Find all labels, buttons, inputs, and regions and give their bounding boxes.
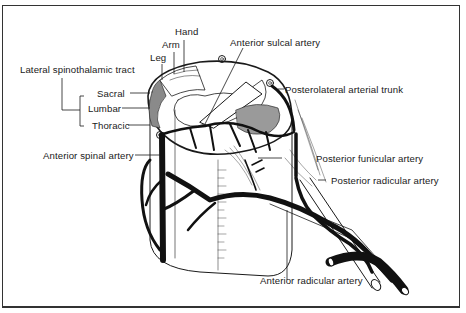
label-anterior-sulcal-artery: Anterior sulcal artery	[230, 37, 320, 48]
label-arm: Arm	[162, 39, 180, 50]
label-posterior-radicular-artery: Posterior radicular artery	[331, 175, 439, 186]
label-hand: Hand	[175, 26, 198, 37]
label-anterior-radicular-artery: Anterior radicular artery	[260, 275, 363, 286]
label-leg: Leg	[150, 52, 166, 63]
label-sacral: Sacral	[97, 88, 125, 99]
label-lateral-spinothalamic-tract: Lateral spinothalamic tract	[20, 64, 135, 75]
label-posterior-funicular-artery: Posterior funicular artery	[316, 153, 423, 164]
label-lumbar: Lumbar	[88, 103, 121, 114]
label-anterior-spinal-artery: Anterior spinal artery	[43, 150, 134, 161]
label-thoracic: Thoracic	[92, 120, 130, 131]
label-posterolateral-arterial-trunk: Posterolateral arterial trunk	[285, 84, 403, 95]
